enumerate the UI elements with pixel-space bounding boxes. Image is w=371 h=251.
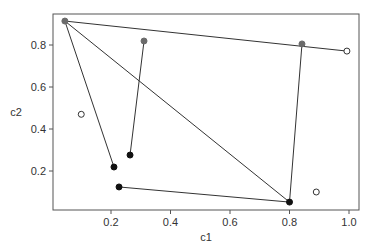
y-axis-label: c2 [10,106,22,118]
data-point-black-filled [287,199,293,205]
data-point-black-filled [127,152,133,158]
x-tick-label: 0.4 [163,216,178,228]
scatter-chart: 0.20.40.60.81.0 0.20.40.60.8 c1 c2 [0,0,371,251]
data-point-open [344,48,350,54]
plot-frame [53,14,359,210]
data-points [62,18,350,205]
data-point-open [78,111,84,117]
data-point-gray-filled [62,18,68,24]
data-point-black-filled [116,184,122,190]
y-tick-label: 0.6 [31,81,46,93]
x-tick-label: 0.2 [103,216,118,228]
x-tick-label: 0.8 [282,216,297,228]
connecting-lines [65,21,347,202]
segment-line [290,44,302,202]
segment-line [65,21,290,202]
y-tick-label: 0.8 [31,39,46,51]
data-point-open [313,189,319,195]
y-axis: 0.20.40.60.8 [31,39,53,177]
segment-line [65,21,347,51]
x-tick-label: 1.0 [341,216,356,228]
x-tick-label: 0.6 [222,216,237,228]
data-point-black-filled [111,164,117,170]
data-point-gray-filled [141,38,147,44]
y-tick-label: 0.2 [31,165,46,177]
x-axis: 0.20.40.60.81.0 [103,210,356,228]
y-tick-label: 0.4 [31,123,46,135]
segment-line [130,41,144,155]
segment-line [65,21,114,167]
x-axis-label: c1 [200,231,212,243]
segment-line [119,187,289,202]
data-point-gray-filled [299,41,305,47]
